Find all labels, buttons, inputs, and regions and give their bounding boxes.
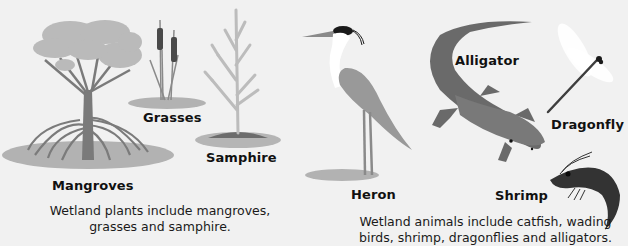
samphire-illustration <box>195 10 281 148</box>
grasses-illustration <box>128 20 206 109</box>
plants-caption: Wetland plants include mangroves, grasse… <box>20 203 300 235</box>
animals-caption-line2: birds, shrimp, dragonflies and alligator… <box>343 230 628 246</box>
samphire-label: Samphire <box>206 150 277 165</box>
alligator-label: Alligator <box>455 53 519 68</box>
grasses-label: Grasses <box>143 110 202 125</box>
plants-caption-line1: Wetland plants include mangroves, <box>20 203 300 219</box>
plants-caption-line2: grasses and samphire. <box>20 219 300 235</box>
heron-illustration <box>302 26 412 181</box>
mangroves-label: Mangroves <box>52 178 134 193</box>
animals-caption-line1: Wetland animals include catfish, wading <box>343 214 628 230</box>
dragonfly-label: Dragonfly <box>551 117 624 132</box>
shrimp-label: Shrimp <box>495 188 548 203</box>
heron-label: Heron <box>351 187 396 202</box>
animals-caption: Wetland animals include catfish, wading … <box>343 214 628 246</box>
mangrove-illustration <box>2 20 174 169</box>
alligator-illustration <box>430 21 545 162</box>
dragonfly-illustration <box>548 19 618 112</box>
